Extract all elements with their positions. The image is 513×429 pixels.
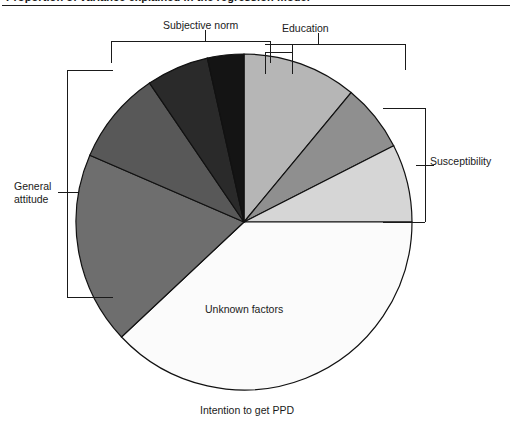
pie-slices-group: [76, 54, 412, 390]
label-general-attitude: General attitude: [14, 180, 70, 205]
label-intention-to-get-ppd: Intention to get PPD: [200, 404, 294, 417]
pie-chart-svg: [0, 0, 513, 429]
label-unknown-factors: Unknown factors: [205, 303, 283, 316]
figure-root: Proportion of variance explained in the …: [0, 0, 513, 429]
label-subjective-norm: Subjective norm: [163, 19, 238, 32]
label-susceptibility: Susceptibility: [430, 155, 491, 168]
label-education: Education: [282, 22, 329, 35]
